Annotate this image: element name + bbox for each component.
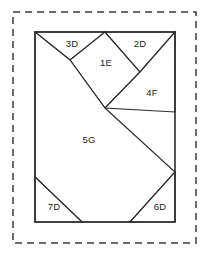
piece-label-2d: 2D bbox=[134, 38, 147, 49]
tangram-figure-root: 3D1E2D4F5G7D6D bbox=[0, 0, 206, 254]
piece-label-5g: 5G bbox=[82, 134, 95, 145]
piece-label-1e: 1E bbox=[100, 57, 112, 68]
piece-label-3d: 3D bbox=[66, 38, 79, 49]
piece-label-6d: 6D bbox=[154, 201, 167, 212]
tangram-diagram: 3D1E2D4F5G7D6D bbox=[0, 0, 206, 254]
piece-label-4f: 4F bbox=[146, 87, 158, 98]
piece-label-7d: 7D bbox=[48, 201, 61, 212]
